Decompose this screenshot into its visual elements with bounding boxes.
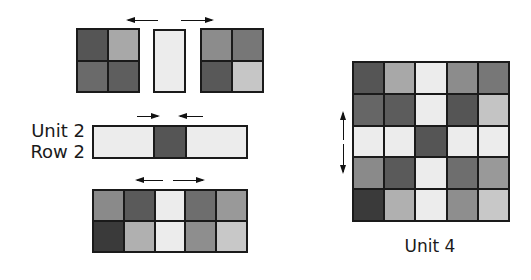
- arrow-right-converge: [137, 116, 158, 117]
- row2-label: Row 2: [0, 141, 85, 162]
- quilt-patch: [416, 95, 445, 125]
- quilt-patch: [479, 158, 508, 188]
- quilt-patch: [385, 190, 414, 220]
- quilt-patch: [385, 63, 414, 93]
- row3-block: [92, 189, 248, 253]
- quilt-patch: [479, 190, 508, 220]
- unit4-grid: [352, 61, 510, 222]
- arrowhead-left-icon: [135, 177, 144, 183]
- arrowhead-right-icon: [205, 17, 214, 23]
- arrowhead-up-icon: [340, 111, 346, 120]
- quilt-patch: [385, 158, 414, 188]
- quilt-patch: [416, 63, 445, 93]
- quilt-patch: [448, 127, 477, 157]
- quilt-patch: [354, 95, 383, 125]
- arrow-left-converge: [180, 116, 203, 117]
- arrow-right: [181, 20, 212, 21]
- quilt-patch: [479, 95, 508, 125]
- quilt-patch: [156, 191, 185, 220]
- arrowhead-right-icon: [151, 113, 160, 119]
- quilt-patch: [155, 127, 185, 157]
- unit2-label: Unit 2: [0, 120, 85, 141]
- quilt-patch: [94, 191, 123, 220]
- quilt-patch: [448, 95, 477, 125]
- arrow-up: [343, 113, 344, 140]
- quilt-patch: [125, 191, 154, 220]
- arrowhead-right-icon: [196, 177, 205, 183]
- quilt-patch: [354, 63, 383, 93]
- quilt-patch: [125, 222, 154, 251]
- quilt-patch: [217, 222, 246, 251]
- quilt-patch: [217, 191, 246, 220]
- row1-center-strip: [153, 29, 186, 93]
- quilt-patch: [448, 158, 477, 188]
- quilt-patch: [385, 95, 414, 125]
- quilt-patch: [354, 190, 383, 220]
- unit4-label: Unit 4: [380, 236, 480, 256]
- quilt-patch: [94, 222, 123, 251]
- quilt-patch: [186, 191, 215, 220]
- quilt-patch: [416, 158, 445, 188]
- quilt-patch: [94, 127, 153, 157]
- quilt-patch: [416, 127, 445, 157]
- quilt-patch: [186, 222, 215, 251]
- quilt-patch: [78, 30, 107, 60]
- quilt-patch: [479, 127, 508, 157]
- arrow-down: [343, 144, 344, 172]
- quilt-patch: [202, 30, 231, 60]
- quilt-patch: [187, 127, 246, 157]
- unit2-row2-label: Unit 2 Row 2: [0, 120, 85, 162]
- quilt-patch: [233, 30, 262, 60]
- quilt-patch: [78, 62, 107, 92]
- quilt-patch: [156, 222, 185, 251]
- quilt-patch: [479, 63, 508, 93]
- row2-strip: [92, 125, 248, 159]
- quilt-patch: [109, 62, 138, 92]
- quilt-patch: [354, 158, 383, 188]
- quilt-patch: [109, 30, 138, 60]
- quilt-patch: [354, 127, 383, 157]
- row1-right-block: [200, 28, 264, 93]
- arrow-left-bottom: [137, 180, 163, 181]
- arrowhead-down-icon: [340, 165, 346, 174]
- arrowhead-left-icon: [126, 17, 135, 23]
- quilt-patch: [202, 62, 231, 92]
- quilt-patch: [448, 190, 477, 220]
- arrow-left: [128, 20, 158, 21]
- arrowhead-left-icon: [178, 113, 187, 119]
- quilt-patch: [416, 190, 445, 220]
- quilt-patch: [385, 127, 414, 157]
- arrow-right-bottom: [173, 180, 203, 181]
- quilt-patch: [155, 31, 184, 91]
- quilt-patch: [233, 62, 262, 92]
- quilt-patch: [448, 63, 477, 93]
- row1-left-block: [76, 28, 140, 93]
